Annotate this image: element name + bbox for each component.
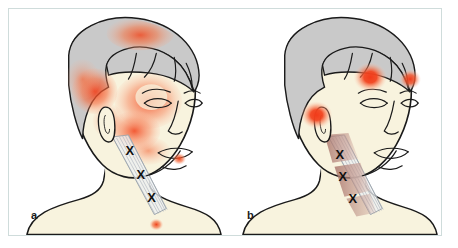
supraorbital-pain-spot (399, 69, 421, 89)
figure-frame: X X X a (8, 8, 442, 236)
vertex-pain-zone (107, 16, 175, 50)
panel-b: X X X b (225, 9, 441, 235)
panel-b-artwork: X X X (225, 9, 441, 235)
panel-a-label: a (31, 209, 37, 221)
trigger-point-2: X (136, 167, 145, 182)
panel-a: X X X a (9, 9, 225, 235)
chin-pain-spot (172, 153, 186, 165)
frontal-pain-spot (353, 62, 387, 92)
figure-plate: X X X a (0, 0, 458, 248)
trigger-point-2: X (338, 169, 347, 184)
panel-b-label: b (247, 209, 254, 221)
panel-a-artwork: X X X (9, 9, 225, 235)
sternal-notch-pain-spot (149, 219, 163, 231)
occipital-pain-zone (66, 59, 100, 99)
panel-a-illustration: X X X (9, 9, 225, 235)
trigger-point-3: X (348, 191, 357, 206)
auricular-pain-zone (301, 101, 333, 129)
trigger-point-3: X (147, 190, 156, 205)
trigger-point-1: X (125, 143, 134, 158)
panel-b-illustration: X X X (225, 9, 441, 235)
trigger-point-1: X (335, 147, 344, 162)
